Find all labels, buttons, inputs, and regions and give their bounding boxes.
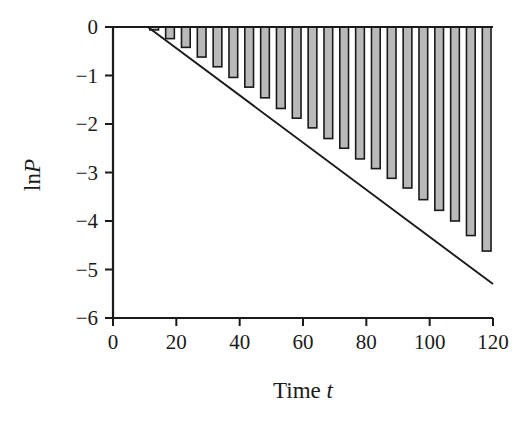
y-axis-title-text: ln [20, 173, 45, 191]
bar [435, 27, 444, 210]
bar [197, 27, 206, 57]
x-tick-label: 0 [108, 330, 119, 354]
bar [451, 27, 460, 221]
bar [387, 27, 396, 178]
y-tick-label: −4 [76, 209, 99, 233]
x-axis-title-text: Time [273, 378, 321, 403]
bar [324, 27, 333, 139]
x-tick-label: 60 [293, 330, 314, 354]
bar [482, 27, 491, 251]
y-tick-label: −2 [76, 112, 98, 136]
x-tick-label: 100 [414, 330, 446, 354]
bar [419, 27, 428, 200]
y-tick-label: −6 [76, 306, 98, 330]
x-axis-title-variable: t [327, 378, 334, 403]
y-axis-title-variable: P [20, 159, 45, 174]
bar [340, 27, 349, 148]
bar [292, 27, 301, 118]
x-tick-label: 40 [229, 330, 250, 354]
y-tick-label: −5 [76, 258, 98, 282]
chart-figure: 020406080100120 0−1−2−3−4−5−6 Time t lnP [0, 0, 532, 422]
bar [229, 27, 238, 77]
bar [166, 27, 175, 39]
bar [276, 27, 285, 108]
y-tick-label: −3 [76, 161, 98, 185]
bar [371, 27, 380, 169]
y-tick-label: 0 [88, 15, 99, 39]
bar [356, 27, 365, 159]
x-tick-label: 120 [477, 330, 509, 354]
x-tick-label: 80 [356, 330, 377, 354]
bar [245, 27, 254, 87]
svg-text:Time t: Time t [273, 378, 333, 403]
bar [466, 27, 475, 236]
ln-p-vs-time-bar-chart: 020406080100120 0−1−2−3−4−5−6 Time t lnP [0, 0, 532, 422]
bar [403, 27, 412, 188]
bar [213, 27, 222, 67]
y-tick-label: −1 [76, 64, 98, 88]
bar [308, 27, 317, 128]
x-tick-label: 20 [166, 330, 187, 354]
svg-text:lnP: lnP [20, 159, 45, 191]
x-axis-title: Time t [273, 378, 333, 403]
bar [181, 27, 190, 47]
y-axis-title: lnP [20, 159, 45, 191]
bar [261, 27, 270, 98]
